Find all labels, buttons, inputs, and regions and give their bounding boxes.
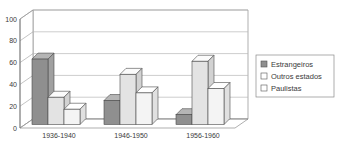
y-tick-label: 0	[13, 125, 17, 132]
legend-label-paulistas: Paulistas	[271, 84, 302, 93]
bar-chart-3d: 100 80 60 40 20 0	[0, 0, 341, 150]
y-tick-label: 20	[9, 103, 17, 110]
legend-swatch-outros-estados	[261, 73, 267, 79]
bar-paulistas-1956-1960	[208, 83, 230, 125]
legend-swatch-estrangeiros	[261, 61, 267, 67]
x-tick-label: 1936-1940	[42, 132, 76, 139]
bar-paulistas-1946-1950	[136, 87, 158, 125]
legend-item-outros-estados[interactable]: Outros estados	[261, 72, 322, 81]
legend-item-paulistas[interactable]: Paulistas	[261, 84, 302, 93]
y-axis-ticks: 100 80 60 40 20 0	[5, 16, 17, 132]
x-tick-label: 1946-1950	[114, 132, 148, 139]
legend-label-estrangeiros: Estrangeiros	[271, 60, 313, 69]
chart-container: 100 80 60 40 20 0	[0, 0, 341, 150]
y-tick-label: 40	[9, 81, 17, 88]
y-tick-label: 80	[9, 37, 17, 44]
y-tick-label: 100	[5, 16, 17, 23]
legend-swatch-paulistas	[261, 85, 267, 91]
x-tick-label: 1956-1960	[186, 132, 220, 139]
bar-paulistas-1936-1940	[64, 103, 86, 124]
chart-legend: Estrangeiros Outros estados Paulistas	[256, 55, 334, 97]
y-tick-label: 60	[9, 59, 17, 66]
plot-left-wall	[20, 10, 33, 128]
legend-label-outros-estados: Outros estados	[271, 72, 322, 81]
